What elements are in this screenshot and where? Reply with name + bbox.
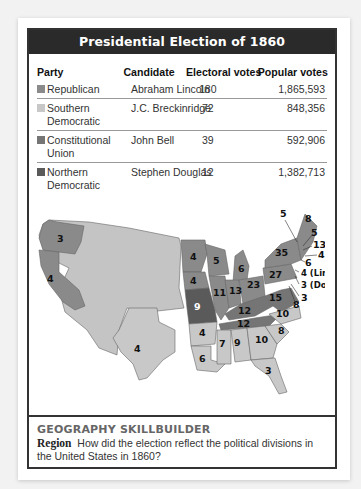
header-popular: Popular votes bbox=[258, 66, 328, 78]
election-map: 3 4 4 4 5 6 11 13 23 27 35 9 12 12 15 10… bbox=[29, 180, 325, 402]
label-maryland: 8 bbox=[293, 299, 300, 310]
label-minnesota: 4 bbox=[190, 251, 197, 262]
label-mississippi: 7 bbox=[219, 338, 226, 349]
electoral-cell: 180 bbox=[199, 83, 217, 95]
label-pennsylvania: 27 bbox=[269, 269, 282, 280]
table-row-constitutional-union: ConstitutionalUnion John Bell 39 592,906 bbox=[37, 131, 327, 163]
label-florida: 3 bbox=[265, 365, 272, 376]
popular-cell: 592,906 bbox=[287, 134, 325, 146]
label-new-hampshire: 5 bbox=[311, 227, 318, 238]
label-alabama: 9 bbox=[234, 337, 241, 348]
party-cell: SouthernDemocratic bbox=[37, 102, 100, 128]
label-virginia: 15 bbox=[269, 292, 282, 303]
label-oregon: 3 bbox=[57, 233, 64, 244]
label-texas: 4 bbox=[134, 343, 141, 354]
label-new-york: 35 bbox=[275, 247, 288, 258]
label-georgia: 10 bbox=[255, 334, 269, 345]
party-cell: ConstitutionalUnion bbox=[37, 134, 111, 160]
label-louisiana: 6 bbox=[199, 353, 206, 364]
header-electoral: Electoral votes bbox=[186, 66, 261, 78]
legend-swatch-republican bbox=[37, 85, 45, 93]
label-kentucky: 12 bbox=[238, 305, 251, 316]
label-michigan: 6 bbox=[238, 263, 245, 274]
header-candidate: Candidate bbox=[123, 66, 174, 78]
popular-cell: 848,356 bbox=[287, 102, 325, 114]
legend-swatch-southern-democratic bbox=[37, 104, 45, 112]
skillbuilder-question-text: How did the election reflect the politic… bbox=[37, 437, 313, 462]
label-iowa: 4 bbox=[190, 275, 197, 286]
header-party: Party bbox=[37, 66, 63, 78]
legend-swatch-constitutional-union bbox=[37, 136, 45, 144]
electoral-cell: 72 bbox=[202, 102, 214, 114]
skillbuilder-label: Region bbox=[37, 437, 72, 449]
state-florida bbox=[251, 358, 287, 394]
candidate-cell: J.C. Breckinridge bbox=[131, 102, 211, 114]
results-table: Party Candidate Electoral votes Popular … bbox=[37, 66, 327, 194]
label-vermont: 5 bbox=[280, 208, 287, 219]
label-new-jersey-douglas: 3 (Douglas) bbox=[301, 280, 325, 290]
label-maine: 8 bbox=[305, 213, 312, 224]
electoral-cell: 39 bbox=[202, 134, 214, 146]
label-delaware: 3 bbox=[301, 292, 308, 303]
figure-title: Presidential Election of 1860 bbox=[29, 30, 335, 54]
electoral-cell: 12 bbox=[202, 166, 214, 178]
skillbuilder-question: Region How did the election reflect the … bbox=[37, 437, 327, 463]
label-connecticut: 6 bbox=[305, 257, 312, 268]
table-row-republican: Republican Abraham Lincoln 180 1,865,593 bbox=[37, 82, 327, 99]
label-south-carolina: 8 bbox=[278, 325, 285, 336]
label-rhode-island: 4 bbox=[318, 249, 325, 260]
label-indiana: 13 bbox=[229, 285, 242, 296]
label-tennessee: 12 bbox=[237, 318, 250, 329]
skillbuilder-heading: GEOGRAPHY SKILLBUILDER bbox=[37, 423, 327, 436]
table-header: Party Candidate Electoral votes Popular … bbox=[37, 66, 304, 82]
label-new-jersey-lincoln: 4 (Lincoln) bbox=[301, 268, 325, 278]
label-arkansas: 4 bbox=[199, 327, 206, 338]
candidate-cell: John Bell bbox=[131, 134, 174, 146]
label-north-carolina: 10 bbox=[276, 308, 290, 319]
table-row-southern-democratic: SouthernDemocratic J.C. Breckinridge 72 … bbox=[37, 99, 327, 131]
candidate-cell: Abraham Lincoln bbox=[131, 83, 210, 95]
label-ohio: 23 bbox=[247, 279, 260, 290]
popular-cell: 1,382,713 bbox=[278, 166, 325, 178]
election-figure: Presidential Election of 1860 Party Cand… bbox=[27, 28, 337, 469]
party-cell: Republican bbox=[37, 83, 100, 96]
label-missouri: 9 bbox=[194, 301, 201, 312]
legend-swatch-northern-democratic bbox=[37, 168, 45, 176]
geography-skillbuilder: GEOGRAPHY SKILLBUILDER Region How did th… bbox=[29, 415, 335, 467]
label-illinois: 11 bbox=[213, 287, 226, 298]
label-wisconsin: 5 bbox=[213, 255, 220, 266]
label-california: 4 bbox=[47, 273, 54, 284]
popular-cell: 1,865,593 bbox=[278, 83, 325, 95]
candidate-cell: Stephen Douglas bbox=[131, 166, 212, 178]
